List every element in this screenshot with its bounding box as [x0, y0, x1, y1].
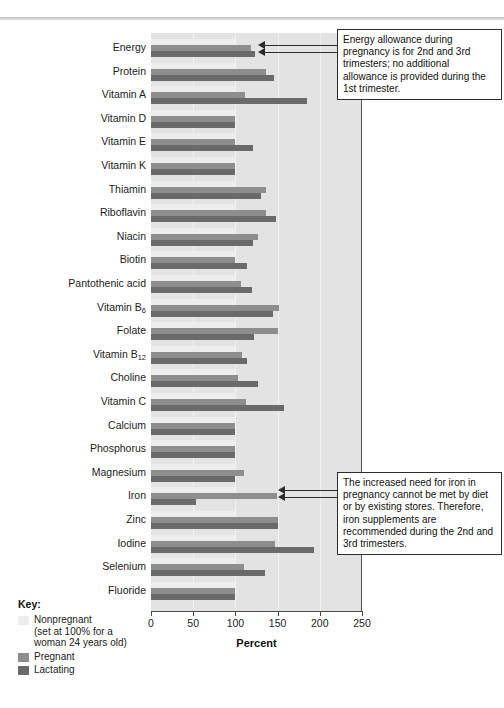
- y-axis-label: Vitamin K: [0, 160, 146, 171]
- y-axis-label: Niacin: [0, 231, 146, 242]
- bar-lactating: [151, 476, 235, 482]
- bar-lactating: [151, 570, 265, 576]
- x-tick-label: 250: [353, 617, 371, 629]
- y-axis-label: Vitamin B12: [0, 349, 146, 361]
- bar-lactating: [151, 358, 247, 364]
- bar-lactating: [151, 98, 307, 104]
- bar-lactating: [151, 523, 278, 529]
- plot-area: [151, 33, 362, 611]
- bar-group: [151, 86, 361, 104]
- y-axis-label: Vitamin C: [0, 396, 146, 407]
- x-tick: [362, 611, 363, 616]
- bar-lactating: [151, 334, 254, 340]
- bar-lactating: [151, 311, 273, 317]
- legend-swatch-lactating: [18, 666, 29, 675]
- bar-group: [151, 558, 361, 576]
- y-axis-label: Vitamin A: [0, 89, 146, 100]
- y-axis-label: Vitamin B6: [0, 302, 146, 314]
- y-axis-label: Thiamin: [0, 184, 146, 195]
- bar-group: [151, 133, 361, 151]
- legend: Key: Nonpregnant (set at 100% for a woma…: [18, 598, 146, 678]
- y-axis-label: Energy: [0, 42, 146, 53]
- y-axis-label: Vitamin E: [0, 136, 146, 147]
- y-axis-label: Protein: [0, 66, 146, 77]
- bar-group: [151, 110, 361, 128]
- y-axis-label: Pantothenic acid: [0, 278, 146, 289]
- bar-lactating: [151, 381, 258, 387]
- bar-lactating: [151, 594, 235, 600]
- callout-energy-leader: [265, 45, 337, 46]
- bar-group: [151, 39, 361, 57]
- bar-group: [151, 299, 361, 317]
- bar-group: [151, 535, 361, 553]
- legend-item-lactating: Lactating: [18, 664, 146, 676]
- y-axis-label: Calcium: [0, 420, 146, 431]
- callout-iron-leader: [285, 490, 337, 491]
- bar-lactating: [151, 263, 247, 269]
- bar-lactating: [151, 287, 252, 293]
- x-tick-label: 200: [311, 617, 329, 629]
- legend-title: Key:: [18, 598, 146, 610]
- bar-group: [151, 204, 361, 222]
- bar-lactating: [151, 405, 284, 411]
- bar-lactating: [151, 145, 253, 151]
- y-axis-label: Biotin: [0, 254, 146, 265]
- bar-group: [151, 322, 361, 340]
- bar-lactating: [151, 193, 261, 199]
- y-axis-label: Magnesium: [0, 467, 146, 478]
- bar-group: [151, 582, 361, 600]
- bar-group: [151, 275, 361, 293]
- y-axis-label: Folate: [0, 325, 146, 336]
- callout-energy: Energy allowance during pregnancy is for…: [337, 29, 502, 100]
- bar-lactating: [151, 169, 235, 175]
- callout-iron-arrowhead-2: [278, 493, 285, 501]
- bar-lactating: [151, 122, 235, 128]
- y-axis-labels: EnergyProteinVitamin AVitamin DVitamin E…: [0, 33, 146, 611]
- bar-rows: [151, 33, 361, 611]
- callout-energy-arrowhead-2: [258, 48, 265, 56]
- y-axis-label: Iodine: [0, 538, 146, 549]
- y-axis-label: Choline: [0, 372, 146, 383]
- legend-label-pregnant: Pregnant: [34, 651, 75, 663]
- x-tick: [193, 611, 194, 616]
- callout-iron-leader-2: [285, 497, 337, 498]
- x-tick-label: 50: [187, 617, 199, 629]
- bar-group: [151, 440, 361, 458]
- bar-lactating: [151, 75, 274, 81]
- x-tick-label: 150: [269, 617, 287, 629]
- x-axis-line: [151, 611, 362, 612]
- bar-group: [151, 63, 361, 81]
- callout-energy-leader-2: [265, 52, 337, 53]
- y-axis-label: Iron: [0, 490, 146, 501]
- x-tick-label: 100: [227, 617, 245, 629]
- x-tick: [235, 611, 236, 616]
- bar-lactating: [151, 216, 276, 222]
- bar-lactating: [151, 51, 255, 57]
- bar-group: [151, 393, 361, 411]
- bar-group: [151, 464, 361, 482]
- x-tick-label: 0: [148, 617, 154, 629]
- legend-item-nonpregnant: Nonpregnant (set at 100% for a woman 24 …: [18, 614, 146, 649]
- header-rule: [0, 17, 504, 20]
- bar-group: [151, 369, 361, 387]
- bar-group: [151, 346, 361, 364]
- bar-group: [151, 157, 361, 175]
- bar-group: [151, 228, 361, 246]
- legend-swatch-nonpregnant: [18, 616, 29, 625]
- y-axis-label: Vitamin D: [0, 113, 146, 124]
- callout-iron: The increased need for iron in pregnancy…: [337, 472, 502, 555]
- y-axis-label: Fluoride: [0, 585, 146, 596]
- x-tick: [151, 611, 152, 616]
- x-tick: [320, 611, 321, 616]
- x-tick: [278, 611, 279, 616]
- y-axis-label: Zinc: [0, 514, 146, 525]
- y-axis-label: Phosphorus: [0, 443, 146, 454]
- bar-group: [151, 251, 361, 269]
- legend-label-nonpregnant: Nonpregnant (set at 100% for a woman 24 …: [34, 614, 127, 649]
- bar-lactating: [151, 240, 253, 246]
- y-axis-label: Selenium: [0, 561, 146, 572]
- figure-root: EnergyProteinVitamin AVitamin DVitamin E…: [0, 0, 504, 708]
- bar-lactating: [151, 429, 235, 435]
- legend-swatch-pregnant: [18, 653, 29, 662]
- bar-lactating: [151, 452, 235, 458]
